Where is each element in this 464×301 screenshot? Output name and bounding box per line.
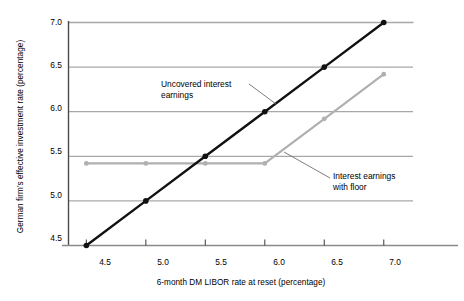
data-point-6-5 xyxy=(322,116,327,121)
chart-figure: German firm's effective investment rate … xyxy=(0,0,464,301)
plot-frame xyxy=(62,21,458,246)
series-line xyxy=(86,74,383,163)
series-interest-earnings-with-floor xyxy=(84,72,386,166)
data-point-5 xyxy=(143,161,148,166)
data-point-5-5 xyxy=(203,154,209,160)
data-point-5 xyxy=(143,198,149,204)
data-point-4-5 xyxy=(84,161,89,166)
x-tick-marks xyxy=(86,240,383,246)
data-point-7 xyxy=(381,72,386,77)
plot-area xyxy=(0,0,464,301)
series-uncovered-interest-earnings xyxy=(84,20,387,249)
data-point-6-5 xyxy=(321,64,327,70)
series-line xyxy=(86,23,383,246)
data-point-6 xyxy=(262,109,268,115)
data-point-4-5 xyxy=(84,243,90,249)
gridlines xyxy=(69,67,414,201)
data-point-7 xyxy=(381,20,387,26)
leader-line-uncovered xyxy=(249,84,276,104)
data-point-6 xyxy=(262,161,267,166)
data-point-5-5 xyxy=(203,161,208,166)
